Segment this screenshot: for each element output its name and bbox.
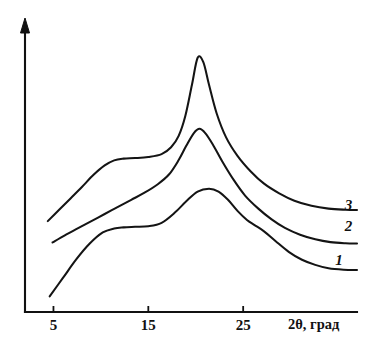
x-axis-tick-label: 5 — [50, 317, 58, 333]
data-curve-2 — [53, 129, 357, 244]
x-axis-tick-label: 15 — [141, 317, 156, 333]
curve-label-1: 1 — [335, 252, 343, 268]
data-curves-group — [48, 56, 357, 296]
curve-labels-group: 321 — [335, 197, 352, 268]
x-axis-title: 2θ, град — [288, 316, 340, 332]
data-curve-3 — [48, 56, 357, 221]
xrd-chart-svg: 51525 321 2θ, град — [0, 0, 368, 349]
curve-label-3: 3 — [344, 197, 353, 213]
curve-label-2: 2 — [344, 218, 353, 234]
y-axis-arrow-icon — [21, 18, 30, 33]
x-axis-tick-label: 25 — [236, 317, 251, 333]
xrd-figure: 51525 321 2θ, град — [0, 0, 368, 349]
x-axis-tick-labels: 51525 — [50, 317, 251, 333]
